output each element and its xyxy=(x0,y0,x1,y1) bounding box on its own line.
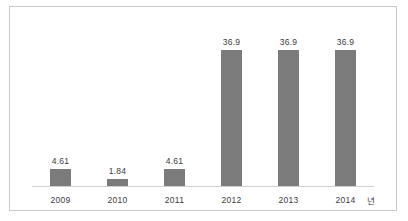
category-axis-line xyxy=(32,186,374,187)
category-tick: 2010 xyxy=(89,191,146,209)
bar-rect[interactable] xyxy=(278,50,299,186)
bar-item[interactable]: 36.9 xyxy=(203,7,260,186)
plot-area: 4.61 1.84 4.61 36.9 36.9 36.9 xyxy=(10,7,396,210)
category-tick: 2014 년 xyxy=(317,191,374,209)
bar-item[interactable]: 36.9 xyxy=(260,7,317,186)
category-label: 2010 xyxy=(107,195,127,205)
category-label: 2013 xyxy=(278,195,298,205)
bar-item[interactable]: 4.61 xyxy=(32,7,89,186)
category-label: 2009 xyxy=(50,195,70,205)
category-tick: 2013 xyxy=(260,191,317,209)
bar-value-label: 4.61 xyxy=(166,157,183,166)
category-axis-labels: 2009 2010 2011 2012 2013 2014 년 xyxy=(32,191,374,209)
bar-item[interactable]: 36.9 xyxy=(317,7,374,186)
bar-value-label: 36.9 xyxy=(337,38,354,47)
bar-value-label: 36.9 xyxy=(280,38,297,47)
bar-rect[interactable] xyxy=(221,50,242,186)
bar-series: 4.61 1.84 4.61 36.9 36.9 36.9 xyxy=(32,7,374,186)
bar-item[interactable]: 1.84 xyxy=(89,7,146,186)
chart-figure: 4.61 1.84 4.61 36.9 36.9 36.9 xyxy=(9,6,397,211)
bar-value-label: 36.9 xyxy=(223,38,240,47)
bar-item[interactable]: 4.61 xyxy=(146,7,203,186)
category-label: 2014 xyxy=(335,195,355,205)
category-tick: 2009 xyxy=(32,191,89,209)
category-label: 2011 xyxy=(165,195,184,205)
category-tick: 2011 xyxy=(146,191,203,209)
axis-unit-label: 년 xyxy=(367,194,375,206)
bar-rect[interactable] xyxy=(50,169,71,186)
bar-value-label: 1.84 xyxy=(109,167,126,176)
category-tick: 2012 xyxy=(203,191,260,209)
bar-rect[interactable] xyxy=(107,179,128,186)
bar-rect[interactable] xyxy=(164,169,185,186)
bar-value-label: 4.61 xyxy=(52,157,69,166)
category-label: 2012 xyxy=(221,195,241,205)
bar-rect[interactable] xyxy=(335,50,356,186)
